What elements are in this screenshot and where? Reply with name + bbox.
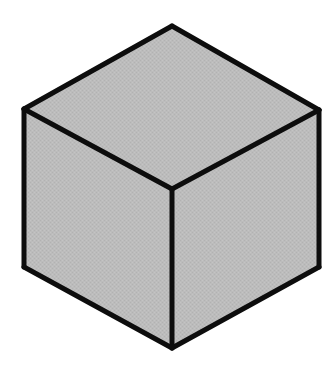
cube-illustration: [0, 0, 336, 365]
figure-canvas: [0, 0, 336, 365]
